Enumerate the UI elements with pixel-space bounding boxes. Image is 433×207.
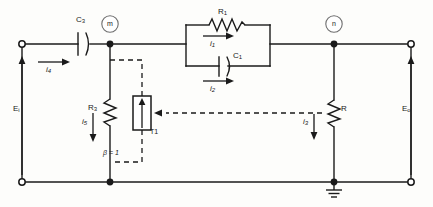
dashed-feedback-arrow-head — [154, 110, 162, 117]
i1-arrow-head — [226, 33, 234, 40]
c1-label: C1 — [233, 52, 242, 60]
r-load-label: R — [341, 105, 347, 113]
i5-arrow-head — [90, 134, 97, 142]
r1-resistor-symbol — [209, 19, 245, 31]
terminal-input-top — [19, 41, 25, 47]
i4-arrow-head — [62, 59, 70, 66]
dashed-path-node-m-to-t1 — [110, 60, 142, 96]
terminal-output-top — [408, 41, 414, 47]
r3-resistor-symbol — [104, 99, 116, 126]
ei-arrow-head — [19, 56, 26, 64]
output-voltage-label: Eo — [402, 105, 411, 113]
schematic-svg — [0, 0, 433, 207]
r1-label: R1 — [218, 8, 227, 16]
terminal-output-bottom — [408, 179, 414, 185]
node-m-label: m — [103, 17, 117, 31]
r3-label: R3 — [88, 104, 97, 112]
ground-symbol — [326, 182, 342, 197]
wire-group — [22, 25, 411, 182]
terminals — [19, 41, 414, 185]
dashed-path-t1-to-beta — [112, 130, 142, 162]
i4-label: i4 — [46, 66, 51, 74]
i5-label: i5 — [82, 118, 87, 126]
r-load-resistor-symbol — [328, 100, 340, 127]
t1-label: T1 — [150, 128, 158, 135]
capacitor-curved-plates — [86, 33, 230, 76]
terminal-input-bottom — [19, 179, 25, 185]
eo-arrow-head — [408, 56, 415, 64]
junction-node-m — [107, 41, 114, 48]
i3-label: i3 — [303, 118, 308, 126]
i3-arrow-head — [311, 132, 318, 140]
node-n-label: n — [327, 17, 341, 31]
c3-label: C3 — [76, 16, 85, 24]
input-voltage-label: Ei — [13, 105, 20, 113]
circuit-diagram-canvas: m n C3 R1 C1 R3 R T1 i4 i1 i2 i5 i3 Ei E… — [0, 0, 433, 207]
i2-label: i2 — [210, 85, 215, 93]
i2-arrow-head — [226, 78, 234, 85]
junction-r3-bottom — [107, 179, 114, 186]
i1-label: i1 — [210, 40, 215, 48]
c3-plate-curved — [86, 33, 89, 55]
junction-node-n — [331, 41, 338, 48]
beta-annotation: β = 1 — [103, 149, 119, 156]
